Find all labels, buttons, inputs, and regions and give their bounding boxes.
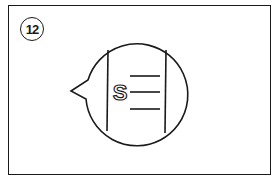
document-right-edge bbox=[165, 50, 166, 133]
document-left-edge bbox=[107, 50, 108, 131]
s-symbol-icon: S bbox=[113, 80, 128, 105]
speech-bubble-outline bbox=[71, 44, 188, 146]
speech-bubble-icon: S bbox=[0, 0, 276, 178]
svg-text:S: S bbox=[113, 80, 128, 105]
